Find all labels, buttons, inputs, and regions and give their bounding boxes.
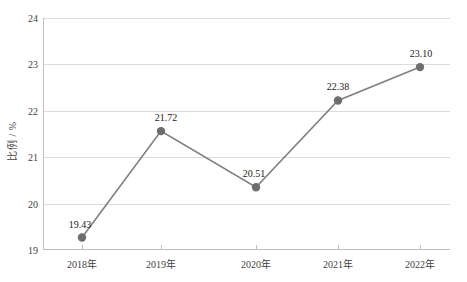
data-label-2019: 21.72 xyxy=(155,112,178,123)
series-line-ratio xyxy=(0,0,467,282)
data-label-2022: 23.10 xyxy=(410,48,433,59)
series-polyline xyxy=(82,67,420,237)
data-point-marker xyxy=(157,127,165,135)
data-point-marker xyxy=(252,183,260,191)
data-point-marker xyxy=(334,96,342,104)
line-chart: 比例 / % 24 23 22 21 20 19 2018年 2019年 202… xyxy=(0,0,467,282)
data-label-2018: 19.43 xyxy=(69,219,92,230)
data-label-2020: 20.51 xyxy=(243,168,266,179)
data-point-marker xyxy=(78,233,86,241)
data-label-2021: 22.38 xyxy=(327,81,350,92)
data-point-marker xyxy=(416,63,424,71)
